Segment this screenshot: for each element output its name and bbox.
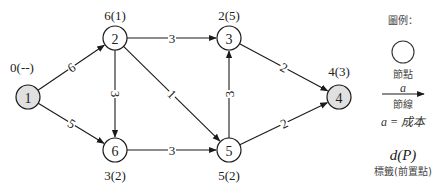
node-3: 32(5) (217, 8, 241, 50)
legend: 圖例： 節點 a 節線 a = 成本 d(P) 標籤(前置點) (374, 14, 432, 177)
edge-2-6: 3 (108, 50, 123, 137)
legend-edge-caption: 節線 (393, 98, 413, 110)
node-1: 10(--) (10, 60, 40, 109)
edges-layer: 653313322 (38, 31, 328, 158)
node-label: 4(3) (328, 64, 350, 79)
edge-2-5: 1 (124, 46, 220, 140)
edge-1-2: 6 (38, 45, 104, 90)
edge-cost-label: 3 (169, 31, 176, 46)
legend-edge-symbol: a (400, 81, 406, 95)
node-id: 4 (336, 91, 343, 106)
node-id: 1 (25, 91, 32, 106)
node-label: 6(1) (104, 8, 126, 23)
node-4: 44(3) (327, 64, 351, 109)
edge-1-6: 5 (38, 103, 104, 143)
node-id: 6 (112, 144, 119, 159)
nodes-layer: 10(--)26(1)32(5)44(3)55(2)63(2) (10, 8, 351, 183)
edge-cost-label: 3 (108, 91, 123, 98)
node-label: 0(--) (10, 60, 34, 75)
legend-label-caption: 標籤(前置點) (374, 165, 432, 177)
node-id: 2 (112, 32, 119, 47)
edge-5-4: 2 (240, 103, 327, 145)
network-diagram: 653313322 10(--)26(1)32(5)44(3)55(2)63(2… (0, 0, 438, 193)
node-6: 63(2) (103, 138, 127, 183)
legend-node-caption: 節點 (393, 68, 413, 80)
diagram-svg: 653313322 10(--)26(1)32(5)44(3)55(2)63(2… (0, 0, 438, 193)
node-2: 26(1) (103, 8, 127, 50)
edge-5-3: 3 (222, 51, 237, 138)
legend-node-icon (392, 41, 414, 63)
legend-cost-caption: a = 成本 (381, 115, 427, 129)
edge-3-4: 2 (240, 44, 328, 91)
edge-cost-label: 3 (169, 143, 176, 158)
legend-title: 圖例： (388, 14, 418, 26)
node-5: 55(2) (217, 138, 241, 183)
node-id: 5 (226, 144, 233, 159)
node-label: 5(2) (218, 168, 240, 183)
legend-label-symbol: d(P) (390, 147, 417, 164)
node-label: 3(2) (104, 168, 126, 183)
edge-cost-label: 3 (222, 91, 237, 98)
edge-6-5: 3 (127, 143, 216, 158)
node-id: 3 (226, 32, 233, 47)
node-label: 2(5) (218, 8, 240, 23)
edge-2-3: 3 (127, 31, 216, 46)
